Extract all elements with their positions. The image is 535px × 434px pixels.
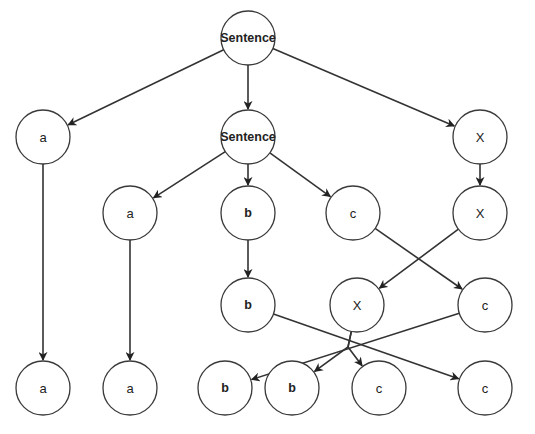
node-x: X: [330, 278, 384, 332]
edge-arrow-sentence-to-a: [154, 152, 226, 198]
edge-arrow-sentence-to-c: [270, 153, 330, 197]
node-b: b: [221, 186, 275, 240]
edge-arrow-sentence-to-x: [273, 49, 454, 126]
node-label: b: [288, 381, 296, 395]
edge-arrow-x-to-x: [379, 229, 458, 288]
node-label: b: [244, 298, 252, 312]
derivation-diagram: SentenceaSentenceXabcXbXcaabbcc: [0, 0, 535, 434]
node-x: X: [453, 186, 507, 240]
node-label: c: [350, 206, 357, 221]
nodes-layer: SentenceaSentenceXabcXbXcaabbcc: [16, 11, 512, 415]
node-label: c: [376, 381, 383, 396]
node-label: X: [353, 298, 362, 313]
node-label: a: [39, 130, 47, 145]
node-c: c: [352, 361, 406, 415]
node-c: c: [458, 278, 512, 332]
node-label: Sentence: [220, 130, 276, 144]
node-x: X: [453, 110, 507, 164]
node-b: b: [198, 361, 252, 415]
node-sentence: Sentence: [220, 110, 276, 164]
node-label: b: [244, 206, 252, 220]
node-b: b: [221, 278, 275, 332]
node-label: c: [482, 298, 489, 313]
node-label: X: [476, 130, 485, 145]
node-a: a: [16, 110, 70, 164]
node-label: a: [39, 381, 47, 396]
node-a: a: [103, 186, 157, 240]
node-label: b: [221, 381, 229, 395]
node-label: c: [482, 381, 489, 396]
node-label: X: [476, 206, 485, 221]
edge-arrow-x-to-b: [315, 331, 352, 371]
node-label: a: [126, 206, 134, 221]
node-b: b: [265, 361, 319, 415]
node-label: Sentence: [220, 31, 276, 45]
edge-arrow-x-to-c: [348, 331, 362, 365]
node-sentence: Sentence: [220, 11, 276, 65]
node-c: c: [326, 186, 380, 240]
node-label: a: [126, 381, 134, 396]
edge-arrow-sentence-to-a: [68, 50, 223, 125]
node-c: c: [458, 361, 512, 415]
node-a: a: [16, 361, 70, 415]
node-a: a: [103, 361, 157, 415]
